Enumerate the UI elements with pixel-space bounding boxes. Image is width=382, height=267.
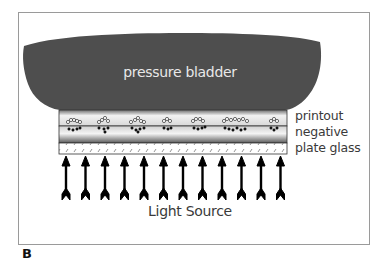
printout-layer — [59, 110, 287, 126]
panel-letter: B — [22, 246, 32, 261]
light-arrows — [62, 156, 285, 200]
printout-label: printout — [295, 108, 343, 123]
light-source-label: Light Source — [130, 203, 250, 219]
pressure-bladder-label: pressure bladder — [120, 64, 240, 80]
negative-layer — [59, 126, 287, 143]
negative-label: negative — [295, 124, 348, 139]
plate-glass-label: plate glass — [295, 140, 361, 155]
